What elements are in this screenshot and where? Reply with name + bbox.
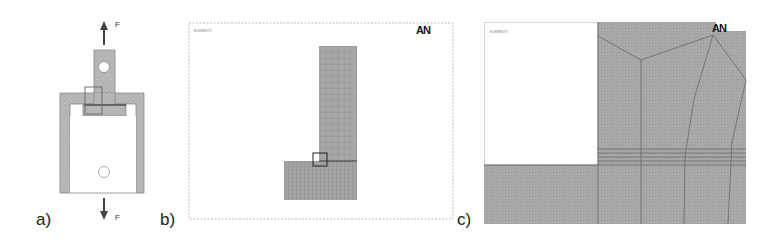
- force-arrow-up-icon: [100, 21, 108, 45]
- panel-label-c: c): [457, 210, 471, 230]
- ansys-logo: AN: [416, 24, 430, 36]
- force-label-top: F: [115, 20, 120, 29]
- void-region: [484, 22, 598, 165]
- panel-label-b: b): [160, 210, 175, 230]
- window-caption: ELEMENTS: [490, 30, 508, 34]
- force-arrow-down-icon: [100, 198, 108, 220]
- fe-mesh-view: [188, 22, 454, 222]
- specimen-schematic: [0, 0, 180, 242]
- panel-label-a: a): [36, 210, 51, 230]
- panel-c: ELEMENTS AN: [484, 22, 748, 227]
- mesh-bottom-block: [284, 161, 357, 200]
- mesh-vertical-bar: [319, 46, 357, 161]
- panel-a: F F a): [0, 0, 180, 242]
- ansys-logo: AN: [712, 22, 726, 34]
- fe-mesh-zoom-view: [484, 22, 748, 227]
- bottom-hole: [99, 167, 110, 178]
- window-caption: ELEMENTS: [194, 29, 212, 33]
- panel-b: ELEMENTS AN: [188, 22, 454, 222]
- tab-hole: [99, 62, 110, 73]
- force-label-bottom: F: [115, 213, 120, 222]
